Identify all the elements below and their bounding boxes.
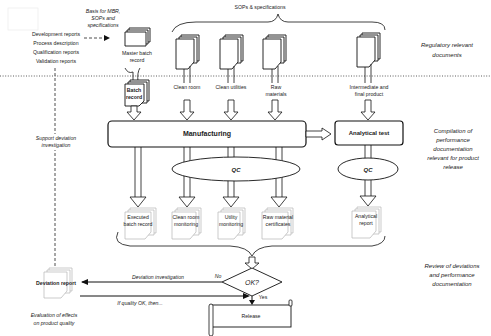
qc-ellipse-manufacturing: QC (172, 157, 300, 181)
output-doc-analytical-report: Analytical report (352, 207, 381, 238)
arrow-down-icon (224, 100, 238, 120)
output-doc-utility-monitoring: Utility monitoring (218, 208, 245, 239)
deviation-report-label: Deviation report (36, 280, 76, 286)
output-doc-executed-batch-record: Executed batch record (124, 208, 156, 239)
svg-text:Executed: Executed (127, 214, 149, 220)
svg-text:Master batch: Master batch (122, 50, 152, 56)
manufacturing-box: Manufacturing (108, 121, 306, 147)
svg-text:Clean room: Clean room (174, 84, 201, 90)
deviation-investigation-label: Deviation investigation (132, 274, 184, 280)
process-diagram: Development reports Process description … (0, 0, 491, 336)
deviation-report-doc: Deviation report (36, 268, 76, 298)
qc-ellipse-analytical: QC (338, 158, 398, 180)
svg-text:record: record (130, 57, 145, 63)
arrow-down-icon (360, 196, 376, 206)
report-process: Process description (33, 40, 78, 46)
svg-text:Review of deviations: Review of deviations (424, 263, 479, 269)
svg-text:documentation: documentation (432, 281, 472, 287)
output-doc-clean-room-monitoring: Clean room monitoring (172, 208, 201, 239)
basis-note: Basis for MBR, SOPs and specifications (86, 8, 121, 28)
no-label: No (215, 273, 222, 279)
zone-label-compilation: Compilation of performance documentation… (427, 128, 479, 170)
arrow-down-icon (130, 197, 146, 207)
svg-text:Raw: Raw (271, 84, 282, 90)
svg-text:Utility: Utility (225, 214, 238, 220)
svg-text:monitoring: monitoring (219, 221, 243, 227)
svg-text:batch record: batch record (124, 221, 153, 227)
manufacturing-label: Manufacturing (183, 130, 231, 138)
svg-text:investigation: investigation (42, 142, 71, 148)
sops-header: SOPs & specifications (234, 4, 285, 10)
svg-text:Clean room: Clean room (173, 214, 200, 220)
analytical-test-box: Analytical test (335, 121, 403, 145)
arrow-down-icon (271, 197, 287, 207)
zone-label-review: Review of deviations and performance doc… (424, 263, 479, 287)
svg-text:and performance: and performance (429, 272, 475, 278)
svg-text:Basis for MBR,: Basis for MBR, (86, 8, 121, 14)
arrow-right-icon (306, 128, 331, 140)
arrow-head-icon (104, 35, 110, 41)
output-doc-raw-material-certificates: Raw material certificates (262, 208, 293, 239)
arrow-down-icon (361, 100, 375, 120)
svg-text:Intermediate and: Intermediate and (350, 84, 389, 90)
svg-text:Regulatory relevant: Regulatory relevant (421, 42, 473, 48)
outputs-brace (117, 232, 386, 256)
sop-doc-clean-utilities: Clean utilities (216, 35, 247, 90)
svg-text:final product: final product (355, 91, 384, 97)
svg-text:release: release (443, 164, 463, 170)
arrow-down-icon (127, 106, 141, 120)
sop-doc-raw-materials: Raw materials (263, 35, 287, 97)
arrow-down-icon (223, 197, 239, 207)
svg-text:record: record (126, 94, 142, 100)
report-validation: Validation reports (36, 58, 76, 64)
svg-text:Analytical: Analytical (355, 213, 377, 219)
svg-text:QC: QC (364, 167, 374, 173)
master-batch-record-doc: Master batch record (122, 28, 152, 63)
svg-text:performance: performance (435, 137, 470, 143)
yes-label: Yes (259, 294, 268, 300)
svg-text:relevant for product: relevant for product (427, 155, 479, 161)
if-quality-ok-label: If quality OK, then... (117, 300, 163, 306)
svg-text:Batch: Batch (127, 87, 141, 93)
support-note: Support deviation investigation (36, 135, 76, 148)
svg-text:on product quality: on product quality (34, 320, 75, 326)
arrow-down-icon (179, 197, 195, 207)
batch-record-doc: Batch record (125, 80, 149, 106)
arrow-head-icon (249, 300, 255, 305)
report-development: Development reports (32, 31, 81, 37)
svg-text:specifications: specifications (87, 22, 119, 28)
svg-text:Evaluation of effects: Evaluation of effects (31, 312, 78, 318)
svg-text:QC: QC (232, 167, 242, 173)
arrow-down-icon (268, 100, 282, 120)
svg-text:SOPs and: SOPs and (91, 15, 116, 21)
analytical-test-label: Analytical test (349, 130, 390, 136)
release-label: Release (241, 313, 260, 319)
svg-text:materials: materials (265, 91, 286, 97)
svg-text:Support deviation: Support deviation (36, 135, 76, 141)
report-qualification: Qualification reports (33, 49, 80, 55)
left-reports: Development reports Process description … (32, 31, 81, 64)
zone-label-regulatory: Regulatory relevant documents (421, 42, 473, 58)
sop-doc-intermediate-final: Intermediate and final product (350, 33, 389, 97)
svg-text:monitoring: monitoring (174, 221, 198, 227)
svg-text:report: report (359, 220, 373, 226)
sops-brace (172, 14, 385, 32)
arrow-down-icon (245, 257, 259, 269)
sop-doc-clean-room: Clean room (174, 35, 201, 90)
svg-text:certificates: certificates (266, 221, 291, 227)
decision-ok: OK? (222, 268, 282, 296)
arrow-down-icon (180, 100, 194, 120)
svg-text:documentation: documentation (433, 146, 473, 152)
decision-label: OK? (245, 279, 259, 286)
arrow-head-icon (81, 279, 88, 285)
evaluation-note: Evaluation of effects on product quality (31, 312, 78, 326)
release-scroll: Release (209, 300, 292, 336)
svg-text:Clean utilities: Clean utilities (216, 84, 247, 90)
svg-text:Raw material: Raw material (263, 214, 293, 220)
svg-text:Compilation of: Compilation of (434, 128, 474, 134)
svg-text:documents: documents (432, 52, 461, 58)
